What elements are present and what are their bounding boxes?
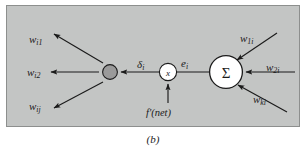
summation-node-label: Σ	[222, 65, 231, 81]
label-f-prime-net: f'(net)	[146, 108, 171, 119]
arrow-to-wij	[54, 82, 103, 108]
diagram-panel: x Σ wi1 wi2 wij δi ei f'(net) w1i w2i wk…	[6, 5, 300, 127]
arrow-to-wi1	[54, 34, 103, 63]
label-weight-i1: wi1	[29, 34, 43, 47]
label-delta-i: δi	[137, 59, 144, 72]
label-weight-ki: wki	[253, 94, 266, 107]
left-fanout-arrows	[51, 34, 103, 108]
figure-caption: (b)	[0, 133, 306, 145]
label-error-i: ei	[181, 58, 188, 71]
multiplier-node-label: x	[165, 68, 170, 78]
label-weight-ij: wij	[29, 101, 41, 114]
delta-node	[103, 65, 118, 80]
label-weight-1i: w1i	[240, 33, 254, 46]
label-weight-2i: w2i	[266, 62, 280, 75]
label-weight-i2: wi2	[27, 67, 41, 80]
figure-root: x Σ wi1 wi2 wij δi ei f'(net) w1i w2i wk…	[0, 0, 306, 154]
